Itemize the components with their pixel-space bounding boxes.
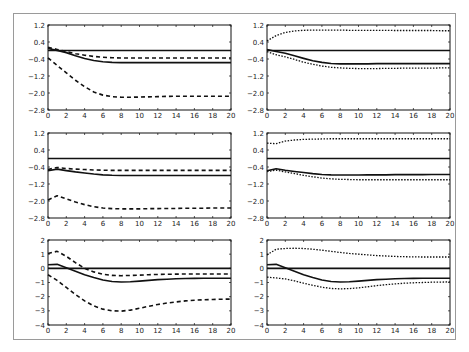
y-tick-label: −1.2 bbox=[247, 73, 264, 81]
y-tick-label: −0.4 bbox=[28, 164, 46, 172]
panel-row3-left: 02468101214161820210−1−2−3−4 bbox=[35, 237, 236, 336]
x-tick-label: 20 bbox=[446, 112, 455, 120]
x-tick-label: 0 bbox=[46, 327, 50, 335]
x-tick-label: 4 bbox=[301, 327, 306, 335]
y-tick-label: −4 bbox=[254, 322, 265, 330]
y-tick-label: −4 bbox=[35, 322, 46, 330]
y-tick-label: −1.2 bbox=[247, 181, 264, 189]
x-tick-label: 8 bbox=[119, 220, 123, 228]
y-tick-label: 0.4 bbox=[253, 39, 265, 47]
x-tick-label: 14 bbox=[172, 220, 181, 228]
x-tick-label: 6 bbox=[101, 220, 106, 228]
x-tick-label: 2 bbox=[283, 112, 287, 120]
x-tick-label: 16 bbox=[190, 220, 199, 228]
x-tick-label: 10 bbox=[354, 112, 363, 120]
y-tick-label: 0.4 bbox=[253, 147, 265, 155]
x-tick-label: 4 bbox=[301, 112, 306, 120]
y-tick-label: −1.2 bbox=[28, 73, 45, 81]
x-tick-label: 18 bbox=[208, 220, 217, 228]
x-tick-label: 0 bbox=[265, 112, 269, 120]
y-tick-label: −2.0 bbox=[247, 90, 264, 98]
y-tick-label: −3 bbox=[35, 307, 45, 315]
x-tick-label: 4 bbox=[82, 112, 87, 120]
x-tick-label: 0 bbox=[46, 220, 50, 228]
y-tick-label: 1 bbox=[41, 251, 45, 259]
x-tick-label: 16 bbox=[190, 327, 199, 335]
y-tick-label: −1 bbox=[35, 279, 45, 287]
x-tick-label: 14 bbox=[172, 327, 181, 335]
x-tick-label: 8 bbox=[119, 327, 123, 335]
y-tick-label: 2 bbox=[260, 237, 264, 245]
y-tick-label: 1.2 bbox=[253, 130, 264, 138]
y-tick-label: −2.0 bbox=[28, 198, 45, 206]
x-tick-label: 4 bbox=[301, 220, 306, 228]
x-tick-label: 12 bbox=[372, 112, 381, 120]
x-tick-label: 2 bbox=[283, 327, 287, 335]
impulse-response-grid: 024681012141618201.20.4−0.4−1.2−2.0−2.80… bbox=[0, 0, 469, 352]
x-tick-label: 0 bbox=[265, 327, 269, 335]
y-tick-label: −2 bbox=[254, 293, 264, 301]
x-tick-label: 20 bbox=[227, 220, 236, 228]
x-tick-label: 16 bbox=[409, 220, 418, 228]
axes-box bbox=[48, 240, 231, 325]
x-tick-label: 16 bbox=[190, 112, 199, 120]
x-tick-label: 10 bbox=[354, 327, 363, 335]
y-tick-label: −2 bbox=[35, 293, 45, 301]
y-tick-label: −2.8 bbox=[28, 215, 45, 223]
axes-box bbox=[267, 25, 450, 110]
x-tick-label: 8 bbox=[338, 112, 342, 120]
y-tick-label: 0 bbox=[260, 265, 264, 273]
x-tick-label: 10 bbox=[135, 327, 144, 335]
x-tick-label: 18 bbox=[427, 327, 436, 335]
x-tick-label: 8 bbox=[119, 112, 123, 120]
x-tick-label: 0 bbox=[46, 112, 50, 120]
x-tick-label: 10 bbox=[135, 220, 144, 228]
panel-row1-right: 024681012141618201.20.4−0.4−1.2−2.0−2.8 bbox=[247, 22, 454, 121]
x-tick-label: 18 bbox=[427, 112, 436, 120]
y-tick-label: −2.0 bbox=[28, 90, 45, 98]
x-tick-label: 12 bbox=[153, 220, 162, 228]
x-tick-label: 12 bbox=[153, 327, 162, 335]
x-tick-label: 14 bbox=[172, 112, 181, 120]
x-tick-label: 8 bbox=[338, 220, 342, 228]
x-tick-label: 0 bbox=[265, 220, 269, 228]
x-tick-label: 12 bbox=[153, 112, 162, 120]
x-tick-label: 20 bbox=[446, 327, 455, 335]
x-tick-label: 12 bbox=[372, 327, 381, 335]
x-tick-label: 12 bbox=[372, 220, 381, 228]
y-tick-label: −2.8 bbox=[247, 107, 264, 115]
x-tick-label: 16 bbox=[409, 327, 418, 335]
x-tick-label: 6 bbox=[320, 327, 325, 335]
y-tick-label: 1.2 bbox=[253, 22, 264, 30]
x-tick-label: 20 bbox=[227, 112, 236, 120]
y-tick-label: 0.4 bbox=[34, 147, 46, 155]
y-tick-label: −2.8 bbox=[28, 107, 45, 115]
y-tick-label: −1.2 bbox=[28, 181, 45, 189]
panel-row1-left: 024681012141618201.20.4−0.4−1.2−2.0−2.8 bbox=[28, 22, 235, 121]
panel-row2-left: 024681012141618201.20.4−0.4−1.2−2.0−2.8 bbox=[28, 130, 235, 229]
x-tick-label: 14 bbox=[391, 112, 400, 120]
y-tick-label: 0 bbox=[41, 265, 45, 273]
panel-row2-right: 024681012141618201.20.4−0.4−1.2−2.0−2.8 bbox=[247, 130, 454, 229]
panel-row3-right: 02468101214161820210−1−2−3−4 bbox=[254, 237, 455, 336]
y-tick-label: −2.0 bbox=[247, 198, 264, 206]
x-tick-label: 14 bbox=[391, 220, 400, 228]
x-tick-label: 20 bbox=[446, 220, 455, 228]
y-tick-label: 0.4 bbox=[34, 39, 46, 47]
y-tick-label: 2 bbox=[41, 237, 45, 245]
x-tick-label: 18 bbox=[208, 327, 217, 335]
x-tick-label: 2 bbox=[64, 220, 68, 228]
x-tick-label: 6 bbox=[101, 112, 106, 120]
x-tick-label: 4 bbox=[82, 220, 87, 228]
y-tick-label: −3 bbox=[254, 307, 264, 315]
y-tick-label: 1 bbox=[260, 251, 264, 259]
y-tick-label: −0.4 bbox=[247, 164, 265, 172]
x-tick-label: 2 bbox=[64, 327, 68, 335]
x-tick-label: 6 bbox=[320, 220, 325, 228]
x-tick-label: 16 bbox=[409, 112, 418, 120]
x-tick-label: 10 bbox=[135, 112, 144, 120]
axes-box bbox=[48, 25, 231, 110]
x-tick-label: 10 bbox=[354, 220, 363, 228]
y-tick-label: −2.8 bbox=[247, 215, 264, 223]
x-tick-label: 4 bbox=[82, 327, 87, 335]
